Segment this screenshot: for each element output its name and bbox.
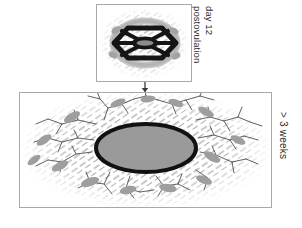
top-panel-label-day12: day 12 [205, 6, 215, 35]
bottom-panel-central-oval [96, 124, 196, 172]
bottom-panel [20, 77, 272, 208]
progression-arrow [142, 82, 148, 93]
figure-root: postovulation day 12 > 3 weeks [0, 0, 302, 228]
top-panel-central-oval [132, 37, 158, 50]
diagram-canvas [0, 0, 302, 228]
top-panel [97, 5, 192, 82]
top-panel-label-postovulation: postovulation [193, 6, 203, 63]
bottom-panel-label-weeks: > 3 weeks [278, 112, 288, 159]
arrow-head [142, 88, 148, 93]
